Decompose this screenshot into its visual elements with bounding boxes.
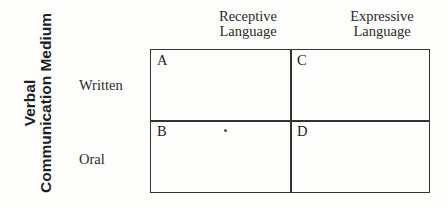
column-header-line: Expressive [327,9,437,24]
y-axis-title-line-2: Communication Medium [38,13,54,193]
cell-d-label: D [297,123,307,140]
grid-divider-horizontal [151,120,429,122]
cell-c-label: C [297,52,307,69]
column-header-line: Language [327,24,437,39]
column-header-line: Receptive [193,9,303,24]
column-header-receptive: Receptive Language [193,9,303,39]
row-label-written: Written [79,77,123,94]
cell-b-label: B [157,123,167,140]
row-label-oral: Oral [79,151,105,168]
print-speck [224,129,227,132]
y-axis-title: Verbal Communication Medium [14,8,62,198]
cell-a-label: A [157,52,167,69]
column-header-expressive: Expressive Language [327,9,437,39]
quadrant-grid: A C B D [150,49,430,193]
column-header-line: Language [193,24,303,39]
y-axis-title-line-1: Verbal [22,13,38,193]
